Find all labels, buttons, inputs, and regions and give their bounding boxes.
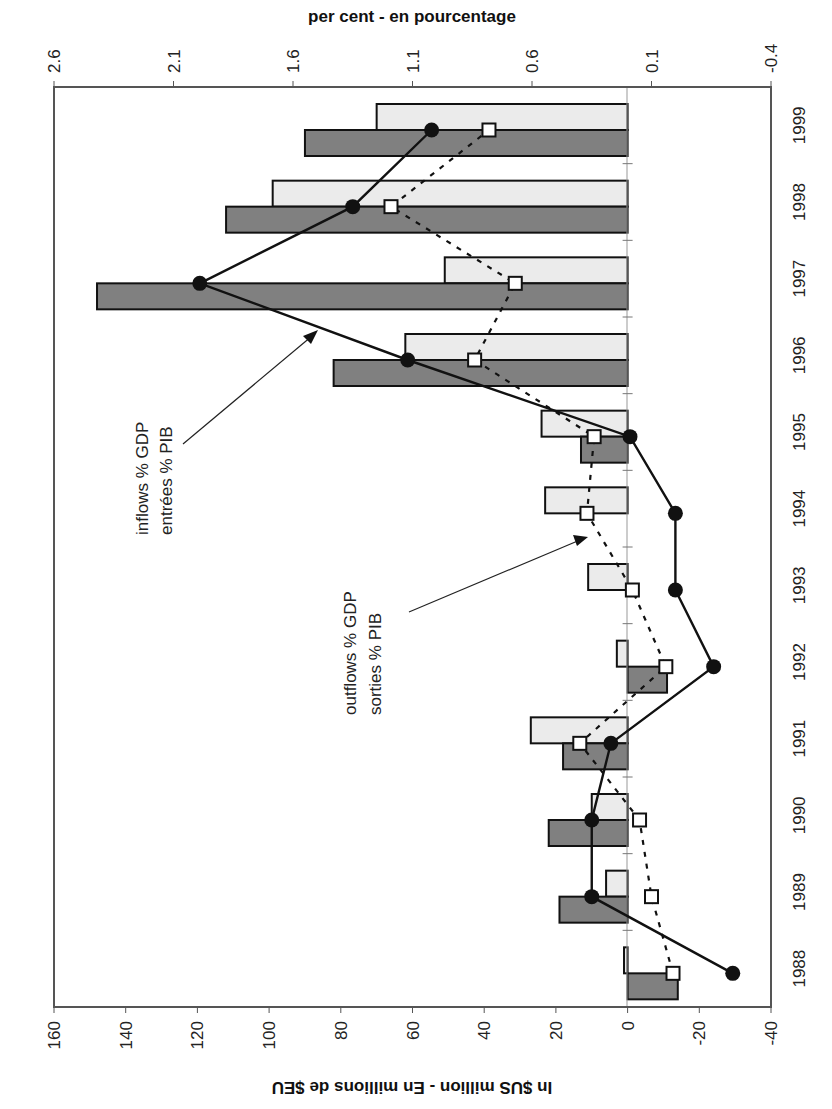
secondary-tick-label: 1.6 xyxy=(284,49,303,73)
category-label: 1999 xyxy=(790,106,809,144)
inflows-annotation: inflows % GDP entrées % PIB xyxy=(133,330,318,535)
category-label: 1990 xyxy=(790,796,809,834)
inflows-pct-marker xyxy=(622,429,637,444)
outflow-bar xyxy=(445,257,628,283)
category-label: 1997 xyxy=(790,260,809,298)
category-label: 1994 xyxy=(790,490,809,528)
category-label: 1995 xyxy=(790,413,809,451)
inflows-pct-marker xyxy=(584,813,599,828)
inflows-annotation-line2: entrées % PIB xyxy=(157,426,176,535)
primary-axis-title: In $US million - En millions de $EU xyxy=(272,1078,553,1097)
primary-tick-label: 80 xyxy=(332,1021,351,1040)
inflows-pct-marker xyxy=(424,123,439,138)
outflows-annotation-line1: outflows % GDP xyxy=(341,591,360,715)
fdi-chart: per cent - en pourcentage In $US million… xyxy=(0,0,832,1109)
line-series xyxy=(192,123,740,981)
inflows-pct-marker xyxy=(668,583,683,598)
outflows-pct-marker xyxy=(384,200,397,213)
inflow-bar xyxy=(97,283,628,309)
secondary-tick-label: 0.6 xyxy=(523,49,542,73)
inflow-bar xyxy=(305,130,628,156)
outflow-bar xyxy=(542,411,628,437)
inflows-pct-marker xyxy=(192,276,207,291)
inflows-pct-marker xyxy=(725,966,740,981)
outflows-pct-marker xyxy=(468,354,481,367)
primary-tick-label: 60 xyxy=(404,1021,423,1040)
outflow-bar xyxy=(617,641,628,667)
inflows-pct-marker xyxy=(345,199,360,214)
outflows-pct-marker xyxy=(659,660,672,673)
outflows-pct-marker xyxy=(509,277,522,290)
inflows-pct-marker xyxy=(603,736,618,751)
outflow-bar xyxy=(405,334,627,360)
outflows-pct-marker xyxy=(667,967,680,980)
primary-tick-label: 40 xyxy=(475,1021,494,1040)
category-label: 1996 xyxy=(790,336,809,374)
secondary-tick-label: 2.1 xyxy=(165,49,184,73)
secondary-tick-label: -0.4 xyxy=(762,44,781,73)
primary-tick-label: -40 xyxy=(762,1021,781,1046)
secondary-axis-ticks: 2.62.11.61.10.60.1-0.4 xyxy=(45,44,781,87)
secondary-axis-title: per cent - en pourcentage xyxy=(308,7,516,26)
outflows-pct-marker xyxy=(482,124,495,137)
primary-tick-label: 160 xyxy=(45,1021,64,1049)
outflow-bar xyxy=(273,181,628,207)
inflows-annotation-line1: inflows % GDP xyxy=(133,422,152,535)
category-label: 1988 xyxy=(790,950,809,988)
outflows-pct-marker xyxy=(588,430,601,443)
category-label: 1991 xyxy=(790,720,809,758)
primary-tick-label: 0 xyxy=(619,1021,638,1030)
outflows-arrow-line xyxy=(409,540,580,612)
secondary-tick-label: 0.1 xyxy=(643,49,662,73)
primary-tick-label: -20 xyxy=(690,1021,709,1046)
category-label: 1998 xyxy=(790,183,809,221)
outflows-pct-marker xyxy=(633,814,646,827)
inflows-pct-marker xyxy=(584,889,599,904)
secondary-tick-label: 2.6 xyxy=(45,49,64,73)
outflows-pct-marker xyxy=(645,890,658,903)
primary-tick-label: 100 xyxy=(260,1021,279,1049)
outflows-pct-marker xyxy=(580,507,593,520)
primary-axis-ticks: 160140120100806040200-20-40 xyxy=(45,1007,781,1049)
outflows-pct-marker xyxy=(626,584,639,597)
category-axis-labels: 1988198919901991199219931994199519961997… xyxy=(790,106,809,987)
outflows-annotation-line2: sorties % PIB xyxy=(366,613,385,715)
primary-tick-label: 140 xyxy=(117,1021,136,1049)
secondary-tick-label: 1.1 xyxy=(404,49,423,73)
inflows-pct-marker xyxy=(706,659,721,674)
arrowhead-icon xyxy=(573,535,588,546)
outflow-bar xyxy=(606,871,628,897)
category-label: 1993 xyxy=(790,566,809,604)
outflow-bar xyxy=(377,104,628,130)
inflows-arrow-line xyxy=(183,336,312,444)
category-label: 1989 xyxy=(790,873,809,911)
inflows-pct-marker xyxy=(668,506,683,521)
outflows-pct-marker xyxy=(573,737,586,750)
inflows-pct-marker xyxy=(400,353,415,368)
primary-tick-label: 120 xyxy=(188,1021,207,1049)
outflows-annotation: outflows % GDP sorties % PIB xyxy=(341,535,588,715)
outflow-bar xyxy=(588,564,627,590)
primary-tick-label: 20 xyxy=(547,1021,566,1040)
category-label: 1992 xyxy=(790,643,809,681)
